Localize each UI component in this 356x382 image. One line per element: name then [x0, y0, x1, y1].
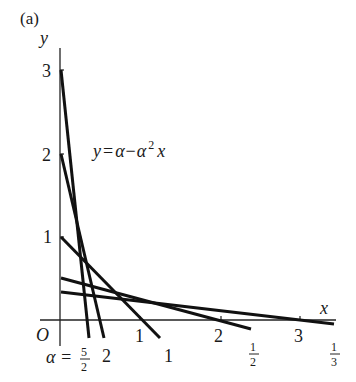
line-label-2: 2 — [102, 346, 111, 366]
svg-text:2: 2 — [81, 360, 87, 374]
line-alpha-5-2 — [61, 70, 89, 338]
equation-annotation: y=α−α2x — [91, 138, 165, 161]
x-tick-label-2: 2 — [214, 326, 223, 346]
svg-text:1: 1 — [331, 340, 337, 354]
y-axis-label: y — [38, 28, 48, 48]
line-alpha-1 — [61, 237, 160, 338]
x-tick-label-3: 3 — [294, 326, 303, 346]
alpha-prefix: α = — [46, 347, 72, 367]
svg-text:y=α−α2x: y=α−α2x — [91, 138, 165, 161]
line-alpha-1-3 — [61, 292, 334, 324]
origin-label: O — [36, 325, 49, 345]
line-label-1-2: 1 2 — [249, 340, 259, 369]
svg-text:3: 3 — [331, 355, 337, 369]
y-tick-label-2: 2 — [42, 145, 51, 165]
diagram-canvas: (a) y x O 3 2 1 1 2 3 y=α−α2x α = 5 2 2 … — [0, 0, 356, 382]
svg-text:1: 1 — [250, 340, 256, 354]
line-label-5-2: 5 2 — [80, 345, 90, 374]
x-tick-label-1: 1 — [135, 326, 144, 346]
line-label-1: 1 — [164, 346, 173, 366]
y-tick-label-3: 3 — [42, 61, 51, 81]
svg-text:2: 2 — [250, 355, 256, 369]
line-alpha-2 — [61, 154, 104, 338]
svg-text:5: 5 — [81, 345, 87, 359]
panel-label: (a) — [20, 9, 39, 28]
x-axis-label: x — [319, 298, 328, 318]
y-tick-label-1: 1 — [43, 227, 52, 247]
line-label-1-3: 1 3 — [330, 340, 340, 369]
